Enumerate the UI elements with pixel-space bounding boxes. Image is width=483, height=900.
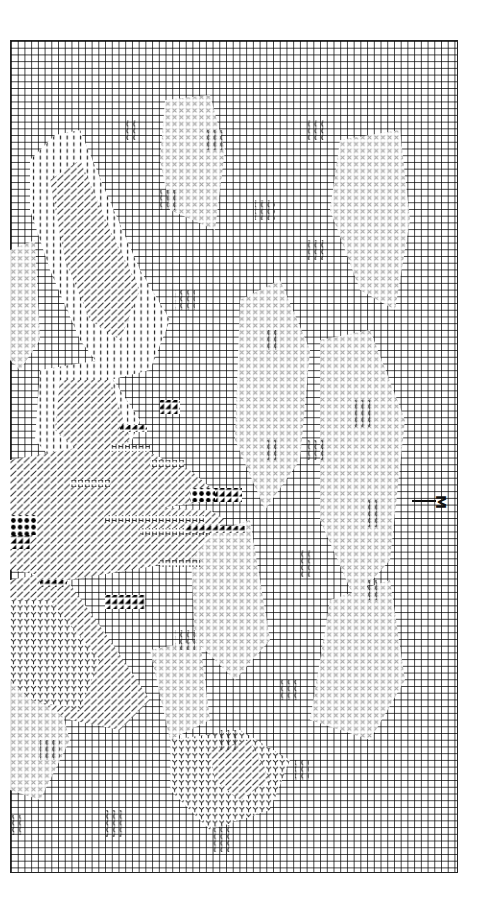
center-marker-label: M (433, 495, 449, 509)
stitch-pattern (10, 40, 458, 873)
